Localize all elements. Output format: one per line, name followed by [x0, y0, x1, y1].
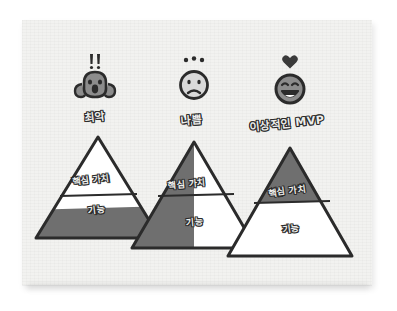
grinning-face-icon	[276, 55, 304, 103]
diagram-canvas: 최악 나쁨 이상적인 MVP 핵심 가치 기능 핵심 가치 기능 핵심 가치 기…	[0, 0, 397, 311]
mood-label-bad: 나쁨	[180, 110, 202, 128]
screaming-face-icon	[75, 54, 115, 97]
pyramid-illustration	[0, 0, 397, 311]
tier-label-ideal-features: 기능	[281, 221, 300, 236]
tier-label-worst-features: 기능	[87, 202, 105, 217]
three-dots-icon	[184, 56, 204, 62]
mood-label-worst: 최악	[83, 107, 106, 125]
frowning-face-icon	[181, 56, 208, 98]
heart-icon	[282, 55, 298, 68]
pyramid-ideal	[222, 142, 362, 267]
double-exclamation-icon	[90, 54, 100, 69]
tier-label-bad-features: 기능	[185, 214, 203, 228]
